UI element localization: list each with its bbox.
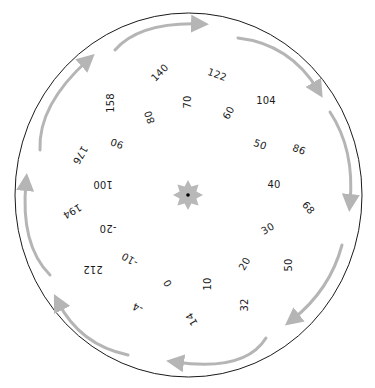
star-icon [173, 180, 203, 210]
fahrenheit-label: 32 [240, 298, 250, 311]
fahrenheit-label: 212 [83, 264, 103, 274]
center-dot [186, 193, 190, 197]
celsius-label: 70 [183, 95, 193, 108]
arrow-bottom [175, 338, 266, 364]
fahrenheit-label: 158 [106, 93, 116, 113]
celsius-label: 10 [203, 277, 213, 290]
fahrenheit-label: 50 [284, 258, 294, 271]
arrow-top-right [238, 38, 318, 90]
celsius-label: 100 [93, 179, 113, 189]
arrow-bottom-right [292, 245, 342, 320]
arrow-left [25, 182, 50, 275]
conversion-dial: -20-100102030405060708090100 194212-4143… [0, 0, 375, 388]
arrow-right [330, 112, 351, 203]
fahrenheit-label: 104 [256, 96, 276, 106]
arrow-top-left [40, 60, 88, 150]
dial-graphics [0, 0, 375, 388]
celsius-label: -20 [100, 223, 117, 233]
arrow-top [115, 24, 200, 50]
celsius-label: 40 [267, 180, 280, 190]
